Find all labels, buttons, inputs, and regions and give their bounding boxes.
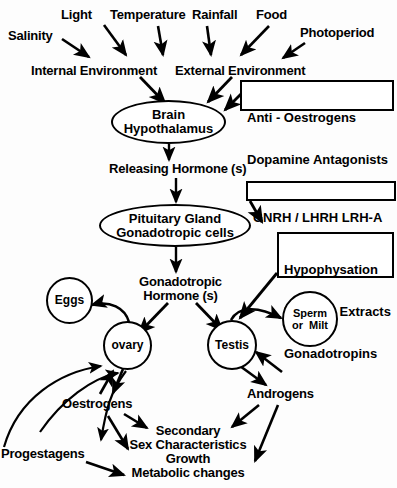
label-food: Food [256, 8, 287, 22]
label-effects-sex-characteristics: Sex Characteristics [108, 438, 268, 452]
arrow-hypophysation-to-testis [240, 273, 277, 318]
anti-oestrogens-line-1: Anti - Oestrogens [247, 111, 388, 125]
label-salinity: Salinity [8, 29, 53, 43]
label-external-environment: External Environment [175, 64, 305, 78]
gnrh-treatment-box: GNRH / LHRH LRH-A [246, 181, 396, 201]
label-gonadotropic-hormone-line-1: Gonadotropic [128, 275, 233, 289]
arrow-food-to-external [241, 26, 269, 55]
node-ovary: ovary [103, 321, 152, 370]
brain-line-1: Brain [152, 108, 185, 122]
gnrh-line-1: GNRH / LHRH LRH-A [253, 211, 390, 225]
label-progestagens: Progestagens [1, 447, 85, 461]
brain-line-2: Hypothalamus [124, 122, 214, 136]
label-androgens: Androgens [247, 387, 314, 401]
hypophysation-treatment-box: Hypophysation Pituitary Extracts Gonadot… [277, 232, 394, 278]
endocrine-flowchart-diagram: Salinity Light Temperature Rainfall Food… [0, 0, 397, 488]
node-pituitary-gland: Pituitary Gland Gonadotropic cells [99, 204, 251, 247]
label-photoperiod: Photoperiod [300, 26, 374, 40]
node-brain-hypothalamus: Brain Hypothalamus [111, 100, 226, 144]
label-oestrogens: Oestrogens [62, 397, 132, 411]
arrow-testis-to-androgens [240, 366, 266, 385]
label-temperature: Temperature [110, 8, 186, 22]
hypophysation-line-1: Hypophysation [284, 263, 388, 277]
arrow-rainfall-to-external [207, 26, 211, 55]
arrow-light-to-internal [104, 25, 126, 55]
node-testis: Testis [207, 320, 257, 370]
pituitary-line-1: Pituitary Gland [129, 212, 221, 226]
pituitary-line-2: Gonadotropic cells [116, 226, 234, 240]
label-effects-secondary: Secondary [108, 424, 268, 438]
arrow-external-to-brain [208, 77, 232, 102]
node-eggs: Eggs [46, 277, 93, 324]
label-light: Light [61, 8, 92, 22]
arrow-testis-to-sperm [231, 309, 281, 320]
arrow-internal-to-brain [140, 77, 165, 103]
node-sperm-or-milt: Sperm or Milt [282, 291, 338, 347]
ovary-label: ovary [111, 339, 143, 352]
label-effects-metabolic-changes: Metabolic changes [108, 466, 268, 480]
arrow-ovary-to-eggs [92, 304, 129, 322]
arrow-photoperiod-to-external [283, 43, 305, 58]
label-internal-environment: Internal Environment [31, 64, 157, 78]
arrow-ovary-to-oestrogens [113, 369, 123, 393]
label-rainfall: Rainfall [192, 8, 237, 22]
label-effects-growth: Growth [108, 452, 268, 466]
eggs-label: Eggs [55, 294, 84, 307]
sperm-line-1: Sperm [293, 307, 327, 319]
arrow-androgens-to-testis-feedback [256, 352, 282, 372]
arrow-salinity-to-internal [62, 39, 89, 57]
arrow-temperature-to-internal [158, 26, 163, 55]
testis-label: Testis [215, 339, 249, 352]
arrow-oestrogens-to-ovary-feedback [100, 371, 113, 394]
label-releasing-hormones: Releasing Hormone (s) [109, 162, 246, 176]
anti-oestrogens-treatment-box: Anti - Oestrogens Dopamine Antagonists [240, 80, 394, 111]
label-gonadotropic-hormone-line-2: Hormone (s) [128, 289, 233, 303]
anti-oestrogens-line-2: Dopamine Antagonists [247, 153, 388, 167]
hypophysation-line-3: Gonadotropins [284, 347, 388, 361]
sperm-line-2: or Milt [292, 319, 328, 331]
